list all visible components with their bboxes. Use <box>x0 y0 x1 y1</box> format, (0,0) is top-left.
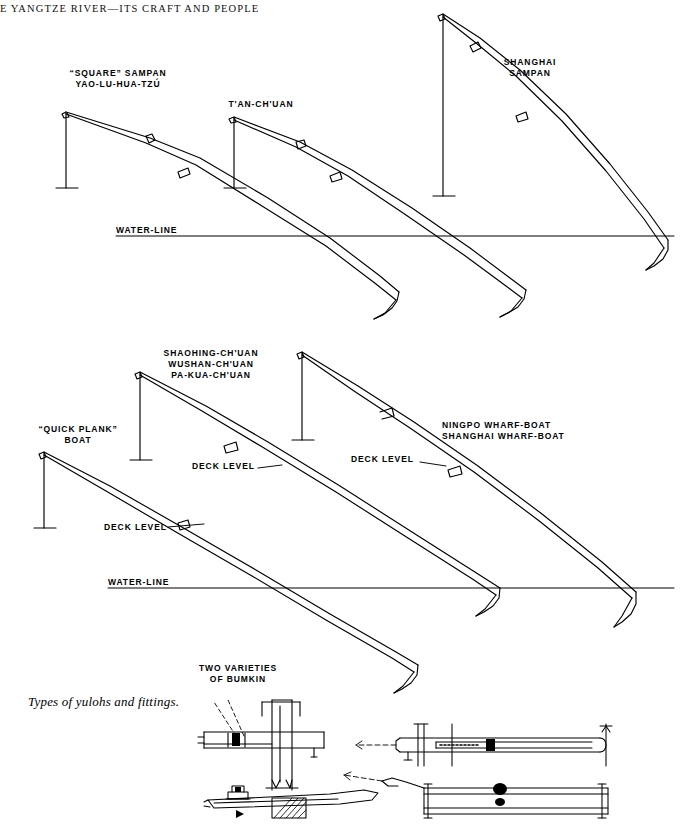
detail-fitting-lower-right <box>344 772 608 818</box>
label-square-sampan-line2: YAO-LU-HUA-TZÚ <box>76 79 161 90</box>
figure-caption: Types of yulohs and fittings. <box>28 694 179 710</box>
yuloh-shanghai-sampan <box>433 14 668 270</box>
label-deck-level-1: DECK LEVEL <box>192 461 255 472</box>
detail-bumkin-upper-left <box>198 700 324 790</box>
label-quick-plank-line1: “QUICK PLANK” <box>38 424 117 435</box>
yuloh-shaohing-chuan <box>130 372 500 616</box>
label-water-line-upper: WATER-LINE <box>116 225 177 236</box>
detail-fitting-upper-right <box>356 724 612 766</box>
label-tan-chuan: T'AN-CH'UAN <box>229 99 294 110</box>
label-shanghai-wharf-boat: SHANGHAI WHARF-BOAT <box>442 431 565 442</box>
detail-fitting-lower-left <box>204 786 378 818</box>
label-deck-level-2: DECK LEVEL <box>351 454 414 465</box>
label-shaohing-line3: PA-KUA-CH'UAN <box>171 370 251 381</box>
yuloh-tan-chuan <box>224 117 526 317</box>
label-shaohing-line1: SHAOHING-CH'UAN <box>164 348 259 359</box>
label-square-sampan-line1: “SQUARE” SAMPAN <box>70 68 167 79</box>
label-shaohing-line2: WUSHAN-CH'UAN <box>168 359 254 370</box>
label-shanghai-sampan-line2: SAMPAN <box>509 68 551 79</box>
yuloh-wharf-boat <box>292 352 636 627</box>
yuloh-quick-plank-boat <box>34 452 418 693</box>
label-bumkin-line1: TWO VARIETIES <box>199 663 277 674</box>
label-deck-level-3: DECK LEVEL <box>104 522 167 533</box>
running-head: E YANGTZE RIVER—ITS CRAFT AND PEOPLE <box>0 3 259 14</box>
label-quick-plank-line2: BOAT <box>64 435 91 446</box>
label-ningpo-wharf-boat: NINGPO WHARF-BOAT <box>442 420 551 431</box>
label-bumkin-line2: OF BUMKIN <box>210 674 266 685</box>
yuloh-square-sampan <box>56 112 399 319</box>
label-shanghai-sampan-line1: SHANGHAI <box>504 57 557 68</box>
label-water-line-middle: WATER-LINE <box>108 577 169 588</box>
